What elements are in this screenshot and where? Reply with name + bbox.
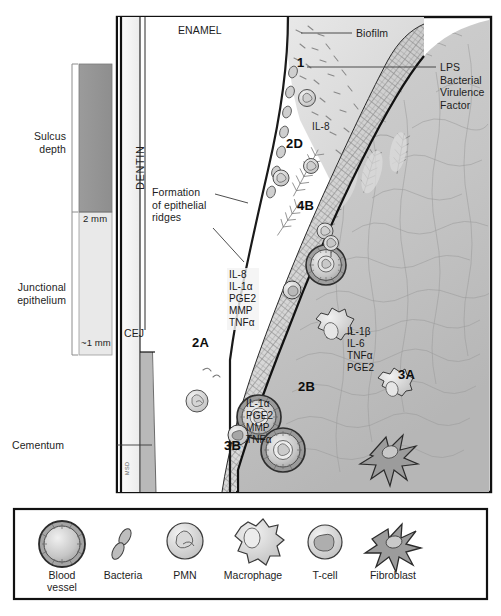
legend-label-t-cell: T-cell: [300, 569, 350, 581]
mediator-line: IL-1β: [347, 326, 374, 338]
mediator-line: IL-8: [229, 269, 256, 281]
mediator-line: PGE2: [229, 293, 256, 305]
mediator-line: PGE2: [347, 362, 374, 374]
mediator-line: TNFα: [347, 350, 374, 362]
legend-label-macrophage: Macrophage: [216, 569, 290, 581]
mediator-line: IL-1α: [229, 281, 256, 293]
legend-label-pmn: PMN: [159, 569, 211, 581]
enamel-label: ENAMEL: [178, 24, 222, 37]
figure-canvas: ENAMEL DENTIN CEJ MSD Sulcus depth Junct…: [0, 0, 501, 616]
measurement-scale: [72, 64, 112, 355]
attribution-mark: MSD: [124, 462, 130, 475]
legend-label-bacteria: Bacteria: [90, 569, 156, 581]
mediator-group-epithelial: IL-8 IL-1α PGE2 MMP TNFα: [227, 268, 259, 330]
cementum-callout: Cementum: [12, 439, 64, 452]
legend-blood-vessel-icon: [39, 521, 85, 567]
epithelial-ridges-callout: Formation of epithelial ridges: [152, 186, 206, 224]
mediator-line: TNFα: [246, 434, 273, 446]
legend-t-cell-icon: [308, 525, 342, 559]
marker-2b: 2B: [298, 381, 315, 394]
biofilm-callout: Biofilm: [356, 27, 388, 40]
mediator-group-vessel: IL-1α PGE2 MMP TNFα: [244, 397, 276, 447]
mediator-line: IL-1α: [246, 398, 273, 410]
junctional-epithelium-label: Junctional epithelium: [0, 281, 66, 306]
il8-epithelial-label: IL-8: [312, 121, 330, 134]
dentin-label: DENTIN: [134, 145, 146, 190]
legend-pmn-icon: [167, 523, 203, 559]
sulcus-depth-label: Sulcus depth: [0, 130, 66, 155]
marker-2d: 2D: [286, 138, 303, 151]
marker-3b: 3B: [224, 440, 241, 453]
mediator-line: TNFα: [229, 317, 256, 329]
lps-callout: LPS Bacterial Virulence Factor: [440, 61, 484, 111]
scale-tick-2mm: 2 mm: [83, 213, 107, 226]
cej-label: CEJ: [124, 327, 144, 340]
scale-tick-1mm: ~1 mm: [81, 337, 111, 350]
marker-3a: 3A: [398, 369, 415, 382]
mediator-group-connective: IL-1β IL-6 TNFα PGE2: [345, 325, 377, 375]
mediator-line: PGE2: [246, 410, 273, 422]
mediator-line: MMP: [229, 305, 256, 317]
marker-4b: 4B: [297, 200, 314, 213]
legend-label-fibroblast: Fibroblast: [358, 569, 428, 581]
mediator-line: MMP: [246, 422, 273, 434]
marker-1: 1: [297, 57, 304, 70]
marker-2a: 2A: [192, 337, 209, 350]
mediator-line: IL-6: [347, 338, 374, 350]
